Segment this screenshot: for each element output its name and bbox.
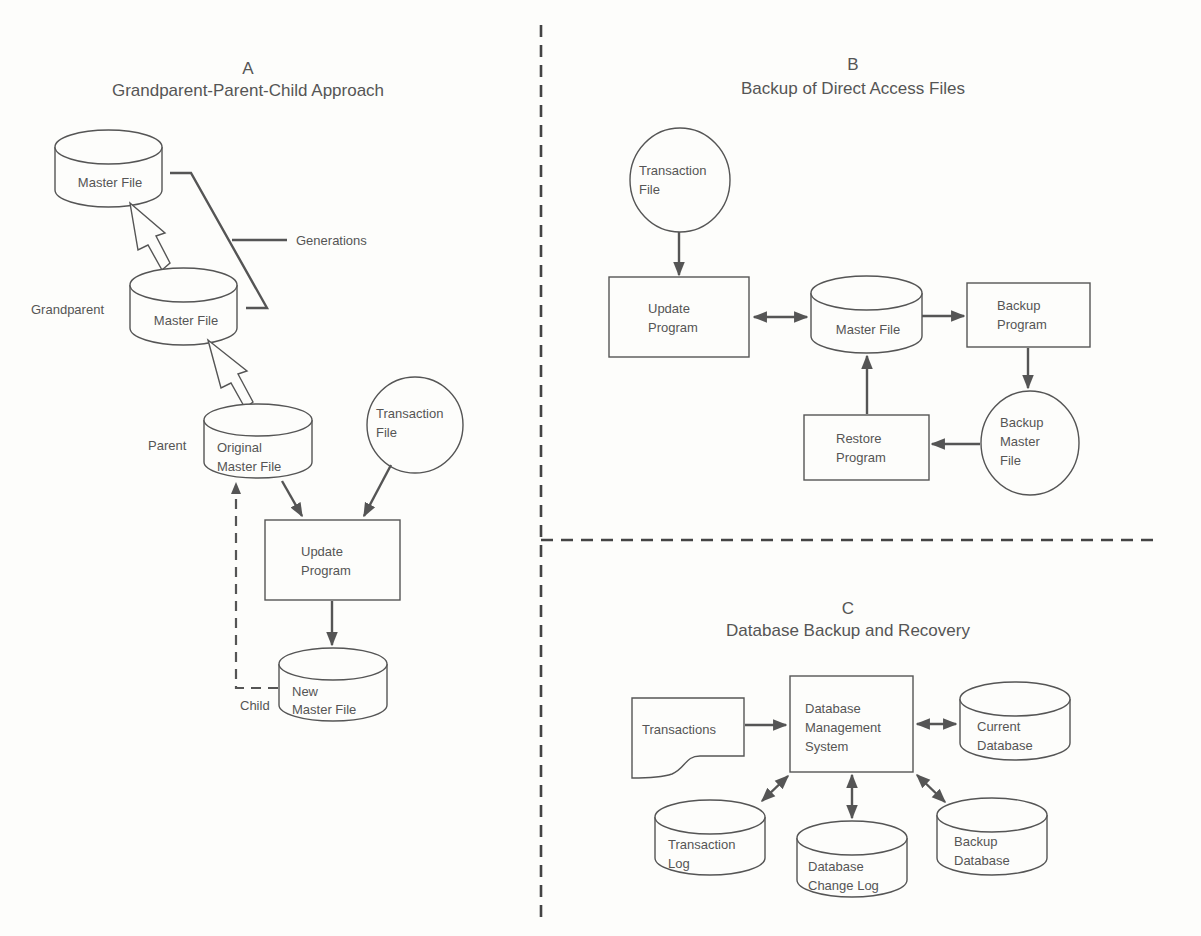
master-file-top-label: Master File	[78, 175, 142, 190]
document-transactions: Transactions	[632, 698, 744, 778]
cylinder-original-master-file: Original Master File	[204, 404, 312, 478]
backupdb-line2: Database	[954, 853, 1010, 868]
transactions-label: Transactions	[642, 722, 716, 737]
panel-b-title: Backup of Direct Access Files	[741, 79, 965, 98]
panel-a-letter: A	[242, 59, 254, 78]
cylinder-transaction-log: Transaction Log	[655, 800, 765, 875]
circle-backup-master-file: Backup Master File	[981, 391, 1079, 495]
original-line1: Original	[217, 440, 262, 455]
panel-b-letter: B	[847, 55, 858, 74]
arrow-transaction-to-update	[364, 465, 391, 516]
txlog-line1: Transaction	[668, 837, 735, 852]
cylinder-master-file-grandparent: Master File	[130, 268, 237, 345]
update-b-line1: Update	[648, 301, 690, 316]
backup-master-line1: Backup	[1000, 415, 1043, 430]
update-b-line2: Program	[648, 320, 698, 335]
cylinder-master-file-top: Master File	[55, 130, 162, 207]
circle-transaction-file-a: Transaction File	[367, 377, 463, 473]
panel-c: C Database Backup and Recovery Transacti…	[632, 599, 1070, 897]
cylinder-master-file-b: Master File	[811, 276, 922, 353]
backupdb-line1: Backup	[954, 834, 997, 849]
arrow-original-to-update	[282, 481, 302, 516]
hollow-arrow-up-2	[208, 340, 253, 408]
restore-line2: Program	[836, 450, 886, 465]
cylinder-current-database: Current Database	[960, 682, 1070, 760]
changelog-line1: Database	[808, 859, 864, 874]
backup-master-line2: Master	[1000, 434, 1040, 449]
box-dbms: Database Management System	[790, 676, 913, 772]
arrow-dbms-backupdb-bidirectional	[917, 775, 945, 802]
backup-master-line3: File	[1000, 453, 1021, 468]
backup-program-line2: Program	[997, 317, 1047, 332]
panel-a: A Grandparent-Parent-Child Approach Mast…	[31, 59, 463, 721]
child-label: Child	[240, 698, 270, 713]
hollow-arrow-up-1	[130, 203, 170, 270]
transaction-a-line1: Transaction	[376, 406, 443, 421]
box-update-program-b: Update Program	[609, 277, 749, 357]
original-line2: Master File	[217, 459, 281, 474]
changelog-line2: Change Log	[808, 878, 879, 893]
panel-b: B Backup of Direct Access Files Transact…	[609, 55, 1090, 495]
update-a-line2: Program	[301, 563, 351, 578]
txlog-line2: Log	[668, 856, 690, 871]
circle-transaction-file-b: Transaction File	[630, 128, 730, 232]
restore-line1: Restore	[836, 431, 882, 446]
backup-diagram-canvas: A Grandparent-Parent-Child Approach Mast…	[0, 0, 1201, 936]
new-line2: Master File	[292, 702, 356, 717]
grandparent-label: Grandparent	[31, 302, 104, 317]
panel-c-letter: C	[842, 599, 854, 618]
backup-program-line1: Backup	[997, 298, 1040, 313]
transaction-b-line2: File	[639, 182, 660, 197]
cylinder-database-change-log: Database Change Log	[797, 821, 907, 897]
cylinder-backup-database: Backup Database	[937, 798, 1047, 875]
cylinder-new-master-file: New Master File	[279, 648, 387, 721]
box-backup-program: Backup Program	[967, 283, 1090, 347]
dbms-line2: Management	[805, 720, 881, 735]
transaction-a-line2: File	[376, 425, 397, 440]
dashed-arrow-head	[231, 482, 241, 494]
current-line1: Current	[977, 719, 1021, 734]
panel-a-title: Grandparent-Parent-Child Approach	[112, 81, 384, 100]
new-line1: New	[292, 684, 319, 699]
update-a-line1: Update	[301, 544, 343, 559]
panel-c-title: Database Backup and Recovery	[726, 621, 970, 640]
parent-label: Parent	[148, 438, 187, 453]
current-line2: Database	[977, 738, 1033, 753]
box-restore-program: Restore Program	[804, 415, 929, 480]
box-update-program-a: Update Program	[265, 520, 400, 600]
transaction-b-line1: Transaction	[639, 163, 706, 178]
generations-label: Generations	[296, 233, 367, 248]
dbms-line1: Database	[805, 701, 861, 716]
master-file-grandparent-label: Master File	[154, 313, 218, 328]
arrow-dbms-txlog-bidirectional	[762, 776, 788, 801]
dbms-line3: System	[805, 739, 848, 754]
master-file-b-label: Master File	[836, 322, 900, 337]
